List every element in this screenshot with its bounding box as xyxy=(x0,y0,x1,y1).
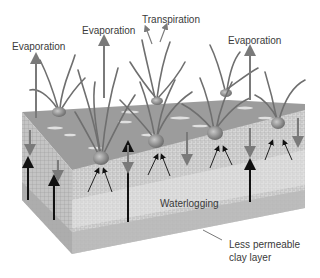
label-clay-layer-line1: Less permeable xyxy=(229,239,300,250)
label-waterlogging: Waterlogging xyxy=(160,198,219,209)
label-clay-layer-line2: clay layer xyxy=(229,252,271,263)
label-evaporation-left: Evaporation xyxy=(12,41,65,52)
plant-3 xyxy=(130,40,185,105)
transpiration-arrows xyxy=(146,26,166,44)
label-transpiration: Transpiration xyxy=(142,14,200,25)
label-evaporation-right: Evaporation xyxy=(228,35,281,46)
clay-leader-line xyxy=(203,230,222,240)
plant-1 xyxy=(30,55,85,117)
label-evaporation-center: Evaporation xyxy=(82,25,135,36)
